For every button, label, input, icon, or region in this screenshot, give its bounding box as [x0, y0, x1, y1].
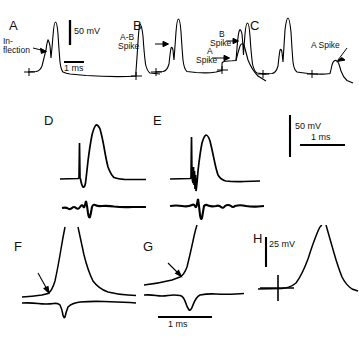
c-a-spike-label: A Spike — [311, 41, 340, 50]
panel-f-inflection-arrow — [38, 273, 49, 293]
panel-c-a-spike-arrow — [337, 48, 347, 62]
panel-letter-d: D — [44, 114, 53, 128]
row-3-traces — [0, 225, 359, 348]
panel-g-extracellular-trace — [144, 294, 244, 311]
panel-h-intracellular-trace — [258, 225, 358, 291]
scalebar-label-1ms-a: 1 ms — [64, 64, 84, 73]
inflection-label-line2: flection — [3, 46, 30, 55]
panel-f-extracellular-trace — [22, 301, 136, 317]
panel-f-intracellular-trace — [22, 227, 136, 297]
panel-g-intracellular-trace — [144, 225, 197, 285]
a-spike-label-line2: Spike — [196, 56, 217, 65]
figure-canvas: A In- flection 50 mV 1 ms B A-B Spike A … — [0, 0, 359, 348]
scalebar-label-50mv-a: 50 mV — [74, 27, 100, 36]
scalebar-label-25mv-h: 25 mV — [269, 240, 295, 249]
panel-h-stimulus-artifact — [260, 275, 294, 301]
panel-c-trace — [262, 18, 353, 83]
panel-g-inflection-arrow — [168, 263, 181, 276]
panel-d-extracellular-trace — [62, 201, 146, 218]
panel-letter-c: C — [250, 19, 259, 33]
scalebar-label-1ms-e: 1 ms — [311, 133, 331, 142]
panel-letter-a: A — [9, 19, 18, 33]
b-spike-label-line2: Spike — [210, 39, 231, 48]
panel-c-baseline-ticks — [258, 70, 318, 78]
panel-d-intracellular-trace — [60, 125, 146, 187]
ab-spike-label-line2: Spike — [118, 42, 139, 51]
panel-letter-e: E — [153, 114, 162, 128]
inflection-arrow — [33, 48, 47, 53]
panel-letter-f: F — [14, 240, 22, 254]
panel-letter-h: H — [253, 232, 262, 246]
scalebar-label-1ms-g: 1 ms — [168, 320, 188, 329]
row-1-traces — [0, 0, 359, 105]
panel-e-extracellular-trace — [170, 199, 264, 219]
scalebar-label-50mv-e: 50 mV — [295, 122, 321, 131]
panel-letter-g: G — [143, 240, 153, 254]
panel-e-intracellular-trace — [170, 135, 260, 191]
panel-letter-b: B — [133, 19, 142, 33]
